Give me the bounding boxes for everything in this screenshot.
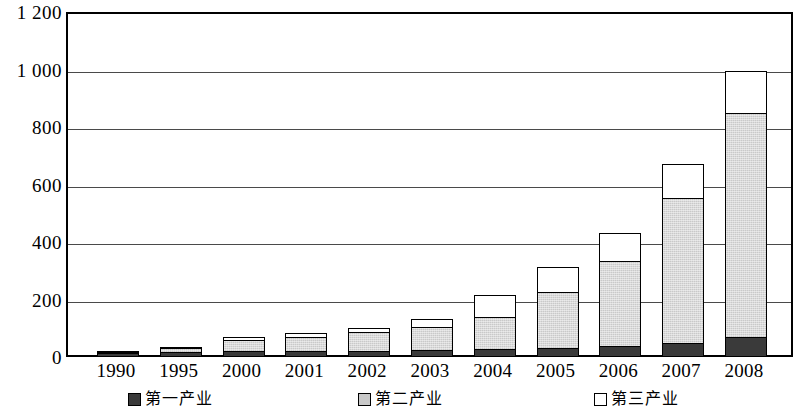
bar-segment-2003-1 <box>411 350 453 356</box>
bar-segment-2004-1 <box>474 349 516 356</box>
x-tick-label-2008: 2008 <box>715 359 773 383</box>
bar-segment-2006-2 <box>599 261 641 347</box>
bar-2007 <box>662 164 704 355</box>
bar-2003 <box>411 319 453 355</box>
legend-swatch-secondary-icon <box>358 393 371 406</box>
x-tick-label-2000: 2000 <box>213 359 271 383</box>
legend-swatch-tertiary-icon <box>594 393 607 406</box>
legend-label-secondary: 第二产业 <box>375 388 443 410</box>
bar-group <box>68 14 791 355</box>
legend-item-primary-industry: 第一产业 <box>128 388 213 410</box>
x-tick-label-2007: 2007 <box>652 359 710 383</box>
bar-segment-2008-1 <box>725 337 767 357</box>
y-tick-label: 600 <box>0 175 62 194</box>
legend-label-primary: 第一产业 <box>145 388 213 410</box>
y-tick-label: 200 <box>0 290 62 309</box>
x-tick-label-1990: 1990 <box>87 359 145 383</box>
legend-swatch-primary-icon <box>128 393 141 406</box>
bar-segment-2007-3 <box>662 164 704 200</box>
x-tick-label-2002: 2002 <box>338 359 396 383</box>
bar-segment-2005-3 <box>537 267 579 293</box>
bar-segment-2004-3 <box>474 295 516 318</box>
bar-segment-2006-3 <box>599 233 641 263</box>
bar-segment-2002-2 <box>348 332 390 353</box>
x-tick-label-2006: 2006 <box>589 359 647 383</box>
bar-segment-2003-2 <box>411 327 453 352</box>
bar-2001 <box>285 333 327 355</box>
bar-segment-1995-1 <box>160 352 202 357</box>
bar-2008 <box>725 71 767 355</box>
chart-legend: 第一产业 第二产业 第三产业 <box>0 388 801 416</box>
y-tick-label: 1 000 <box>0 60 62 79</box>
y-axis-tick-labels: 1 200 1 000 800 600 400 200 0 <box>0 0 62 417</box>
bar-segment-2006-1 <box>599 346 641 357</box>
bar-segment-2000-1 <box>223 351 265 356</box>
bar-segment-2002-1 <box>348 351 390 357</box>
bar-segment-2007-2 <box>662 198 704 344</box>
bar-segment-2004-2 <box>474 317 516 351</box>
y-tick-label: 800 <box>0 118 62 137</box>
y-tick-label: 400 <box>0 233 62 252</box>
bar-segment-2007-1 <box>662 343 704 357</box>
bar-segment-2008-2 <box>725 113 767 339</box>
x-axis-tick-labels: 1990199520002001200220032004200520062007… <box>0 359 801 385</box>
bar-segment-2005-1 <box>537 348 579 357</box>
x-tick-label-2005: 2005 <box>527 359 585 383</box>
stacked-bar-chart: 1 200 1 000 800 600 400 200 0 1990199520… <box>0 0 801 417</box>
plot-area <box>66 12 793 357</box>
x-tick-label-2003: 2003 <box>401 359 459 383</box>
bar-1995 <box>160 347 202 355</box>
x-tick-label-1995: 1995 <box>150 359 208 383</box>
legend-label-tertiary: 第三产业 <box>611 388 679 410</box>
x-tick-label-2001: 2001 <box>275 359 333 383</box>
bar-2006 <box>599 233 641 355</box>
y-tick-label: 1 200 <box>0 3 62 22</box>
legend-item-secondary-industry: 第二产业 <box>358 388 443 410</box>
x-tick-label-2004: 2004 <box>464 359 522 383</box>
bar-segment-2005-2 <box>537 292 579 350</box>
bar-1990 <box>97 351 139 355</box>
bar-2000 <box>223 337 265 355</box>
bar-2004 <box>474 295 516 355</box>
bar-segment-2008-3 <box>725 71 767 115</box>
legend-item-tertiary-industry: 第三产业 <box>594 388 679 410</box>
bar-segment-1990-1 <box>97 353 139 356</box>
bar-2002 <box>348 328 390 355</box>
bar-segment-2001-1 <box>285 351 327 356</box>
bar-2005 <box>537 267 579 355</box>
